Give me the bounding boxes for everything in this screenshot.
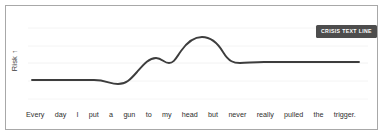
caption-word: Every xyxy=(26,111,44,118)
caption-word: gun xyxy=(123,111,135,118)
caption-word-axis: Every day I put a gun to my head but nev… xyxy=(26,108,356,122)
caption-word: trigger. xyxy=(334,111,356,118)
crisis-text-line-badge[interactable]: CRISIS TEXT LINE xyxy=(316,25,377,38)
caption-word: I xyxy=(77,111,79,118)
caption-word: my xyxy=(162,111,172,118)
gridlines xyxy=(28,28,368,99)
risk-curve xyxy=(32,37,359,84)
caption-word: head xyxy=(182,111,198,118)
caption-word: a xyxy=(109,111,113,118)
caption-word: the xyxy=(314,111,324,118)
caption-word: really xyxy=(257,111,274,118)
chart-figure: Risk ↑ CRISIS TEXT LINE Every day I put … xyxy=(0,0,383,135)
y-axis-label-text: Risk ↑ xyxy=(11,49,20,71)
caption-word: put xyxy=(89,111,99,118)
caption-word: to xyxy=(146,111,152,118)
crisis-text-line-badge-label: CRISIS TEXT LINE xyxy=(321,29,372,34)
caption-word: never xyxy=(228,111,246,118)
caption-word: but xyxy=(208,111,218,118)
caption-word: pulled xyxy=(284,111,303,118)
caption-word: day xyxy=(55,111,67,118)
y-axis-label: Risk ↑ xyxy=(8,36,22,84)
